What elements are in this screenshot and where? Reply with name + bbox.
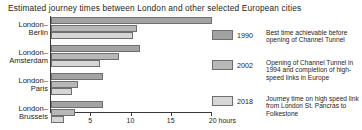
- legend-swatch-2002: [212, 60, 233, 70]
- bar-2018-london-berlin: [51, 32, 133, 39]
- legend-description-1990: Best time achievable before opening of C…: [266, 29, 362, 44]
- category-label-london-paris: London–Paris: [18, 77, 48, 94]
- bar-1990-london-berlin: [51, 17, 212, 24]
- bar-2018-london-amsterdam: [51, 60, 100, 67]
- bar-1990-london-amsterdam: [51, 45, 140, 52]
- x-tick-label-10: 10: [127, 117, 135, 124]
- legend-swatch-1990: [212, 30, 233, 40]
- legend-year-2002: 2002: [237, 61, 253, 70]
- legend-description-2018: Journey time on high speed link from Lon…: [266, 95, 362, 117]
- legend-swatch-2018: [212, 96, 233, 106]
- bar-2002-london-paris: [51, 81, 78, 88]
- legend-year-1990: 1990: [237, 31, 253, 40]
- chart-legend: 1990Best time achievable before opening …: [212, 16, 362, 130]
- bar-2018-london-paris: [51, 88, 72, 95]
- category-label-london-berlin: London–Berlin: [18, 21, 48, 38]
- bar-2002-london-amsterdam: [51, 53, 119, 60]
- bar-1990-london-brussels: [51, 101, 103, 108]
- x-tick-15: [171, 112, 172, 116]
- category-label-london-amsterdam: London–Amsterdam: [9, 49, 48, 66]
- chart-title: Estimated journey times between London a…: [8, 3, 301, 13]
- x-tick-5: [90, 112, 91, 116]
- x-tick-10: [131, 112, 132, 116]
- bar-2002-london-berlin: [51, 25, 137, 32]
- x-tick-label-5: 5: [88, 117, 92, 124]
- bar-1990-london-paris: [51, 73, 103, 80]
- legend-description-2002: Opening of Channel Tunnel in 1994 and co…: [266, 59, 362, 81]
- category-label-london-brussels: London–Brussels: [18, 105, 48, 122]
- bar-2002-london-brussels: [51, 109, 75, 116]
- chart-container: Estimated journey times between London a…: [0, 0, 362, 130]
- bar-2018-london-brussels: [51, 116, 64, 123]
- legend-year-2018: 2018: [237, 97, 253, 106]
- x-tick-label-15: 15: [167, 117, 175, 124]
